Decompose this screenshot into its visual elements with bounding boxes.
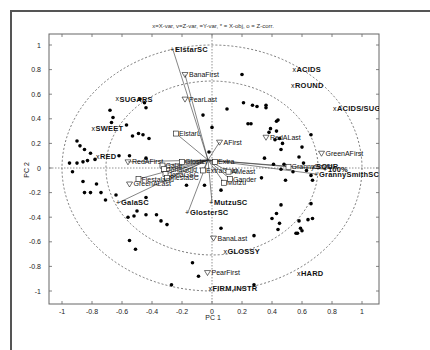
x-variable-label: ACIDS	[297, 65, 321, 74]
x-object-point	[81, 180, 85, 184]
y-variable-label: ElstarSC	[175, 45, 208, 54]
x-object-point	[89, 151, 93, 155]
z-corr-square-icon	[286, 164, 291, 169]
x-object-point	[207, 150, 211, 154]
z-variable-label: BanaLast	[218, 235, 248, 242]
x-object-point	[263, 156, 267, 160]
z-variable-label: BanaFirst	[189, 71, 219, 78]
z-corr-label: Extra	[218, 158, 234, 165]
x-object-point	[144, 106, 148, 110]
x-object-point	[255, 105, 259, 109]
x-object-point	[275, 212, 279, 216]
z-corr-square-icon	[201, 168, 206, 173]
x-object-point	[191, 261, 195, 265]
x-object-point	[275, 129, 279, 133]
x-object-point	[309, 202, 313, 206]
x-object-point	[311, 217, 315, 221]
x-tick-label: -0.8	[86, 308, 98, 315]
x-object-point	[81, 160, 85, 164]
x-object-point	[260, 176, 264, 180]
z-corr-label: Fiestaland	[142, 176, 174, 183]
x-object-point	[270, 217, 274, 221]
z-variable-triangle-icon	[205, 271, 211, 276]
x-object-point	[95, 182, 99, 186]
z-corr-label: AMeast	[232, 168, 256, 175]
x-object-point	[108, 108, 112, 112]
z-corr-square-icon	[222, 180, 227, 185]
z-corr-label: ElstarL	[179, 130, 201, 137]
y-variable-label: GlosterSC	[190, 208, 229, 217]
z-variable-triangle-icon	[125, 160, 131, 165]
x-variable-label: RED	[100, 152, 117, 161]
y-tick-label: -0.8	[29, 263, 41, 270]
y-variable-marker: +	[209, 199, 213, 206]
x-object-point	[225, 107, 229, 111]
z-variable-label: RedAFirst	[132, 158, 163, 165]
x-tick-label: -0.2	[176, 308, 188, 315]
y-variable-label: GalaSC	[121, 198, 149, 207]
x-variable-label: ROUND	[295, 81, 324, 90]
y-axis-label: PC 2	[23, 162, 30, 178]
z-variable-label: AFirst	[224, 139, 242, 146]
x-object-point	[128, 239, 132, 243]
y-tick-label: -0.4	[29, 214, 41, 221]
z-corr-square-icon	[136, 177, 141, 182]
y-tick-label: 0.6	[31, 91, 41, 98]
x-object-point	[137, 132, 141, 136]
x-object-point	[306, 218, 310, 222]
x-object-point	[240, 73, 244, 77]
z-variable-triangle-icon	[182, 97, 188, 102]
z-variable-label: PearLast	[189, 96, 217, 103]
x-object-point	[281, 142, 285, 146]
z-corr-square-icon	[180, 159, 185, 164]
y-tick-label: 0.4	[31, 115, 41, 122]
x-object-point	[78, 144, 82, 148]
chart-title: x=X-var, v=Z-var, =Y-var, * = X-obj, o =…	[152, 23, 274, 29]
z-corr-square-icon	[162, 167, 167, 172]
x-object-point	[309, 174, 313, 178]
z-corr-square-icon	[174, 131, 179, 136]
z-corr-label: FiestaSC	[170, 174, 199, 181]
y-variable-marker: +	[314, 171, 318, 178]
x-object-point	[68, 161, 72, 165]
y-tick-label: 0.8	[31, 66, 41, 73]
x-object-point	[201, 113, 205, 117]
y-variable-label: MutzuSC	[214, 198, 248, 207]
x-object-point	[165, 223, 169, 227]
x-tick-label: -0.6	[116, 308, 128, 315]
x-object-point	[278, 222, 282, 226]
y-variable-marker: +	[170, 46, 174, 53]
x-object-point	[99, 191, 103, 195]
x-variable-label: SUGARS	[120, 95, 153, 104]
x-object-point	[89, 191, 93, 195]
plot-area: -1-0.8-0.6-0.4-0.200.20.40.60.81-1-0.8-0…	[29, 34, 397, 315]
x-object-point	[75, 161, 79, 165]
x-object-point	[252, 234, 256, 238]
x-object-point	[276, 228, 280, 232]
loading-line	[185, 75, 208, 160]
x-axis-label: PC 1	[205, 314, 221, 321]
y-tick-label: 0.2	[31, 140, 41, 147]
x-variable-label: SWEET	[96, 124, 124, 133]
x-variable-label: GLOSSY	[228, 247, 260, 256]
x-object-point	[300, 145, 304, 149]
x-object-point	[296, 231, 300, 235]
x-object-point	[269, 127, 273, 131]
x-object-point	[311, 179, 315, 183]
y-variable-marker: +	[185, 209, 189, 216]
x-object-point	[251, 103, 255, 107]
x-object-point	[291, 170, 295, 174]
x-object-point	[155, 213, 159, 217]
x-variable-label: HARD	[301, 269, 324, 278]
x-object-point	[125, 123, 129, 127]
x-object-point	[309, 133, 313, 137]
x-object-point	[279, 148, 283, 152]
loading-line	[173, 50, 208, 160]
y-tick-label: -0.2	[29, 189, 41, 196]
x-object-point	[144, 213, 148, 217]
x-object-point	[111, 116, 115, 120]
x-object-point	[131, 134, 135, 138]
y-tick-label: 1	[37, 42, 41, 49]
x-object-point	[71, 170, 75, 174]
x-object-point	[83, 191, 87, 195]
